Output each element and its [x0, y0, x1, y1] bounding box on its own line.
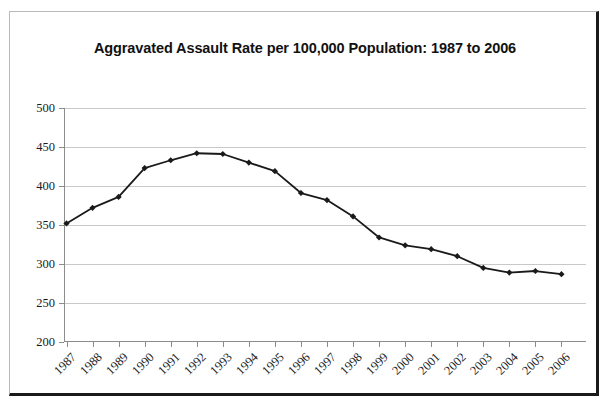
data-point-2004	[506, 269, 512, 275]
x-tick-mark-1992	[197, 342, 198, 347]
data-point-2003	[480, 265, 486, 271]
x-tick-mark-2003	[483, 342, 484, 347]
y-tick-label-500: 500	[36, 101, 55, 116]
x-tick-mark-1996	[301, 342, 302, 347]
x-tick-mark-1995	[275, 342, 276, 347]
x-tick-mark-2001	[431, 342, 432, 347]
y-tick-mark-200	[59, 342, 64, 343]
series-markers	[63, 150, 564, 277]
series-polyline	[67, 153, 562, 274]
data-point-1992	[194, 150, 200, 156]
data-point-1993	[220, 151, 226, 157]
data-point-2000	[402, 242, 408, 248]
x-axis-tick-labels: 1987198819891990199119921993199419951996…	[64, 350, 586, 395]
x-tick-mark-2000	[405, 342, 406, 347]
y-tick-label-300: 300	[36, 257, 55, 272]
x-tick-mark-1997	[327, 342, 328, 347]
y-tick-label-200: 200	[36, 335, 55, 350]
y-tick-label-350: 350	[36, 218, 55, 233]
data-series-line	[64, 108, 586, 342]
x-tick-mark-2006	[561, 342, 562, 347]
x-tick-mark-1989	[119, 342, 120, 347]
x-tick-mark-1991	[171, 342, 172, 347]
x-tick-mark-1999	[379, 342, 380, 347]
chart-title: Aggravated Assault Rate per 100,000 Popu…	[10, 40, 600, 56]
data-point-2001	[428, 246, 434, 252]
y-axis-tick-labels: 200250300350400450500	[10, 108, 64, 342]
x-tick-mark-2004	[509, 342, 510, 347]
x-tick-mark-2005	[535, 342, 536, 347]
chart-figure-frame: Aggravated Assault Rate per 100,000 Popu…	[9, 11, 599, 396]
data-point-2006	[558, 271, 564, 277]
x-tick-mark-1987	[67, 342, 68, 347]
plot-area	[64, 108, 586, 342]
data-point-2002	[454, 253, 460, 259]
y-tick-label-250: 250	[36, 296, 55, 311]
y-tick-label-450: 450	[36, 140, 55, 155]
x-tick-mark-1993	[223, 342, 224, 347]
data-point-1994	[246, 160, 252, 166]
x-tick-mark-1990	[145, 342, 146, 347]
data-point-2005	[532, 268, 538, 274]
x-tick-mark-1988	[93, 342, 94, 347]
x-tick-mark-1998	[353, 342, 354, 347]
data-point-1991	[168, 157, 174, 163]
x-tick-mark-1994	[249, 342, 250, 347]
y-tick-label-400: 400	[36, 179, 55, 194]
x-tick-mark-2002	[457, 342, 458, 347]
